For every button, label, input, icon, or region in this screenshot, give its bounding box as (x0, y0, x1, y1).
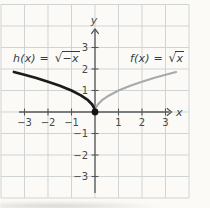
f-label-prefix: f(x) = (130, 52, 167, 65)
x-tick-label: 1 (115, 117, 121, 128)
x-tick-label: −1 (64, 117, 79, 128)
graph-figure: −3−2−1123−3−2−1123xy h(x) = √−x f(x) = √… (0, 0, 210, 208)
x-tick-label: 2 (139, 117, 145, 128)
y-axis-label: y (90, 14, 98, 27)
x-tick-label: −3 (17, 117, 32, 128)
y-tick-label: 2 (82, 64, 88, 75)
x-tick-label: −2 (41, 117, 56, 128)
plot-canvas: −3−2−1123−3−2−1123xy (0, 0, 210, 208)
y-tick-label: −1 (73, 128, 88, 139)
origin-point (92, 109, 99, 116)
h-label-prefix: h(x) = (13, 52, 53, 65)
x-axis-label: x (175, 106, 183, 119)
y-tick-label: −3 (73, 171, 88, 182)
f-label-radicand: x (175, 51, 184, 65)
y-tick-label: −2 (73, 150, 88, 161)
h-function-label: h(x) = √−x (13, 51, 80, 65)
f-function-label: f(x) = √x (130, 51, 184, 65)
curve-f (95, 72, 176, 112)
h-label-radicand: −x (62, 51, 80, 65)
y-tick-label: 3 (82, 42, 88, 53)
y-tick-label: 1 (82, 85, 88, 96)
x-tick-label: 3 (162, 117, 168, 128)
